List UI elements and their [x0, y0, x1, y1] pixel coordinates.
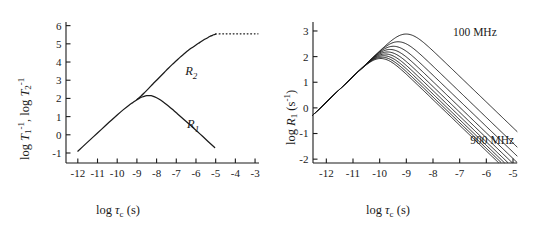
ylabel-T1-sub: 1 [23, 129, 33, 134]
rylabel-close: ) [284, 90, 298, 94]
ylabel-T2-sub: 2 [23, 85, 33, 90]
x-tick-label: -7 [455, 167, 465, 179]
x-tick-label: -12 [70, 167, 85, 179]
ylabel-T1: T [18, 134, 32, 141]
annotation-100-mhz: 100 MHz [453, 26, 497, 38]
y-tick-label: 1 [56, 111, 62, 123]
rylabel-R: R [284, 118, 298, 126]
y-tick-label: 3 [56, 74, 62, 86]
x-tick-label: -5 [508, 167, 518, 179]
y-tick-label: -2 [299, 153, 308, 165]
ylabel-T2-sup: -1 [16, 78, 26, 86]
x-tick-label: -6 [482, 167, 492, 179]
x-tick-label: -8 [152, 167, 162, 179]
curve-r2 [137, 34, 216, 100]
curve-label-r2: R2 [184, 64, 198, 80]
curve-600-mhz [313, 54, 508, 162]
y-tick-label: 0 [303, 102, 309, 114]
x-tick-label: -10 [110, 167, 125, 179]
y-tick-label: 2 [303, 51, 309, 63]
y-tick-label: 5 [56, 38, 62, 50]
y-tick-label: 4 [56, 56, 62, 68]
ylabel-comma: , log [18, 97, 32, 122]
rxlabel-unit: (s) [394, 203, 410, 217]
y-tick-label: 1 [303, 76, 309, 88]
x-tick-label: -11 [346, 167, 360, 179]
left-x-axis-label: log τc (s) [96, 203, 140, 219]
right-y-axis-label: log R1 (s-1) [282, 90, 299, 145]
x-tick-label: -6 [191, 167, 201, 179]
y-tick-label: 0 [56, 129, 62, 141]
ylabel-T2: T [18, 90, 32, 97]
x-tick-label: -5 [211, 167, 221, 179]
y-tick-label: -1 [299, 127, 308, 139]
left-y-axis-label: log T1-1, log T2-1 [16, 78, 33, 160]
curve-200-mhz [313, 42, 517, 147]
x-tick-label: -12 [319, 167, 334, 179]
curve-500-mhz [313, 52, 512, 162]
y-tick-label: 2 [56, 92, 62, 104]
x-tick-label: -7 [172, 167, 182, 179]
ylabel-log1: log [18, 141, 32, 160]
x-tick-label: -11 [90, 167, 104, 179]
rxlabel-log: log [366, 203, 385, 217]
right-x-axis-label: log τc (s) [366, 203, 410, 219]
x-tick-label: -9 [132, 167, 142, 179]
figure-container: -10123456-12-11-10-9-8-7-6-5-4-3R2R1 log… [0, 0, 533, 235]
y-tick-label: -1 [52, 147, 61, 159]
x-tick-label: -9 [402, 167, 412, 179]
annotation-900-mhz: 900 MHz [470, 134, 514, 146]
x-tick-label: -10 [372, 167, 387, 179]
panel-right: -2-10123-12-11-10-9-8-7-6-5100 MHz900 MH… [266, 0, 533, 235]
rylabel-unit: (s [284, 102, 298, 114]
rylabel-sup: -1 [282, 94, 292, 102]
rylabel-R-sub: 1 [289, 114, 299, 119]
left-plot-canvas: -10123456-12-11-10-9-8-7-6-5-4-3R2R1 [0, 0, 266, 235]
curve-900-mhz [313, 59, 498, 163]
xlabel-unit: (s) [124, 203, 140, 217]
xlabel-log: log [96, 203, 115, 217]
x-tick-label: -4 [231, 167, 241, 179]
x-tick-label: -8 [428, 167, 438, 179]
rylabel-log: log [284, 126, 298, 145]
curve-700-mhz [313, 56, 504, 163]
ylabel-T1-sup: -1 [16, 122, 26, 130]
x-tick-label: -3 [250, 167, 260, 179]
y-tick-label: 6 [56, 20, 62, 32]
right-plot-canvas: -2-10123-12-11-10-9-8-7-6-5100 MHz900 MH… [266, 0, 533, 235]
curve-800-mhz [313, 57, 501, 162]
panel-left: -10123456-12-11-10-9-8-7-6-5-4-3R2R1 log… [0, 0, 266, 235]
y-tick-label: 3 [303, 25, 309, 37]
curve-label-r1: R1 [186, 117, 199, 133]
